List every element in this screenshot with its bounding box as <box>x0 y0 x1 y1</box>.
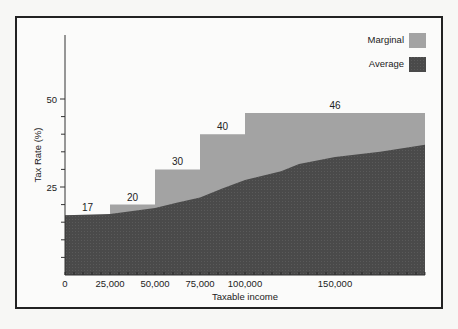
bracket-label: 30 <box>172 156 184 167</box>
x-tick-label: 0 <box>62 278 67 289</box>
legend-label: Average <box>369 58 404 69</box>
legend: MarginalAverage <box>368 33 426 72</box>
bracket-label: 40 <box>217 121 229 132</box>
bracket-label: 17 <box>82 202 94 213</box>
x-tick-label: 50,000 <box>140 278 169 289</box>
x-tick-label: 150,000 <box>318 278 352 289</box>
tax-rate-chart: 1720304046 2550025,00050,00075,000100,00… <box>0 0 458 329</box>
x-tick-label: 100,000 <box>228 278 262 289</box>
bracket-label: 46 <box>329 100 341 111</box>
legend-swatch <box>409 57 426 72</box>
x-axis-title: Taxable income <box>212 291 278 302</box>
legend-label: Marginal <box>368 34 404 45</box>
x-tick-label: 75,000 <box>185 278 214 289</box>
x-tick-label: 25,000 <box>95 278 124 289</box>
y-tick-label: 25 <box>46 182 57 193</box>
legend-swatch <box>409 33 426 48</box>
y-tick-label: 50 <box>46 94 57 105</box>
bracket-label: 20 <box>127 192 139 203</box>
y-axis-title: Tax Rate (%) <box>32 128 43 183</box>
